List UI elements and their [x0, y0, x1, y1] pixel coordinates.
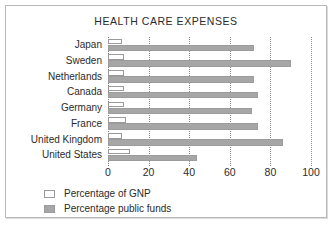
bar-group-japan: Japan — [108, 37, 311, 53]
bar-group-united-kingdom: United Kingdom — [108, 132, 311, 148]
gridline-100 — [311, 37, 312, 166]
bar-gnp-canada — [108, 86, 124, 92]
bar-public-funds-france — [108, 123, 258, 130]
x-axis-tick-label-80: 80 — [265, 166, 277, 178]
y-axis-label-sweden: Sweden — [66, 53, 102, 69]
y-axis-label-united-kingdom: United Kingdom — [31, 132, 102, 148]
bar-public-funds-sweden — [108, 60, 291, 67]
bar-group-netherlands: Netherlands — [108, 69, 311, 85]
bar-public-funds-japan — [108, 45, 254, 52]
bar-gnp-netherlands — [108, 70, 124, 76]
x-axis-tick-label-60: 60 — [224, 166, 236, 178]
x-axis-tick-label-40: 40 — [183, 166, 195, 178]
y-axis-label-japan: Japan — [75, 37, 102, 53]
y-axis-label-united-states: United States — [42, 147, 102, 163]
y-axis-label-canada: Canada — [67, 84, 102, 100]
bar-public-funds-canada — [108, 92, 258, 99]
bar-gnp-germany — [108, 102, 124, 108]
y-axis-label-netherlands: Netherlands — [48, 69, 102, 85]
y-axis-label-france: France — [71, 116, 102, 132]
bar-gnp-japan — [108, 39, 122, 45]
legend-swatch-public-funds-icon — [44, 205, 55, 213]
bar-group-canada: Canada — [108, 84, 311, 100]
bar-group-united-states: United States — [108, 147, 311, 163]
x-axis-tick-label-100: 100 — [302, 166, 320, 178]
bar-public-funds-germany — [108, 108, 252, 115]
bar-group-sweden: Sweden — [108, 53, 311, 69]
bar-group-france: France — [108, 116, 311, 132]
legend-item-gnp: Percentage of GNP — [44, 186, 171, 201]
bar-public-funds-united-kingdom — [108, 139, 283, 146]
chart-legend: Percentage of GNP Percentage public fund… — [44, 186, 171, 216]
bar-gnp-france — [108, 117, 126, 123]
bar-public-funds-united-states — [108, 155, 197, 162]
legend-swatch-gnp-icon — [44, 190, 55, 198]
x-axis-tick-label-0: 0 — [105, 166, 111, 178]
bar-gnp-united-kingdom — [108, 133, 122, 139]
x-axis-tick-label-20: 20 — [143, 166, 155, 178]
y-axis-label-germany: Germany — [61, 100, 102, 116]
bar-gnp-sweden — [108, 54, 124, 60]
bar-public-funds-netherlands — [108, 76, 254, 83]
bar-group-germany: Germany — [108, 100, 311, 116]
chart-title: HEALTH CARE EXPENSES — [6, 15, 326, 27]
bar-gnp-united-states — [108, 149, 130, 155]
legend-item-public-funds: Percentage public funds — [44, 201, 171, 216]
chart-frame: HEALTH CARE EXPENSES 020406080100JapanSw… — [5, 5, 327, 218]
legend-label-gnp: Percentage of GNP — [64, 188, 151, 199]
legend-label-public-funds: Percentage public funds — [64, 203, 171, 214]
plot-area: 020406080100JapanSwedenNetherlandsCanada… — [108, 37, 311, 163]
